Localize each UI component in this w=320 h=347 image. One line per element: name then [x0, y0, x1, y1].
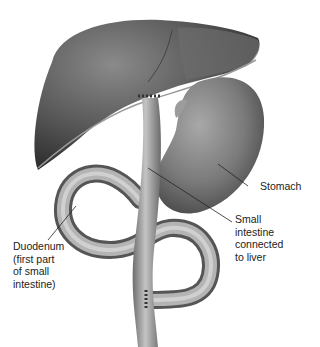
small-intestine-label: Small intestine connected to liver	[235, 213, 283, 263]
diagram-illustration	[0, 0, 320, 347]
stomach-label: Stomach	[260, 180, 301, 193]
stomach	[156, 77, 264, 213]
duodenum-label: Duodenum (first part of small intestine)	[13, 240, 64, 290]
anatomy-diagram: Stomach Small intestine connected to liv…	[0, 0, 320, 347]
intestine-limb	[133, 96, 162, 347]
